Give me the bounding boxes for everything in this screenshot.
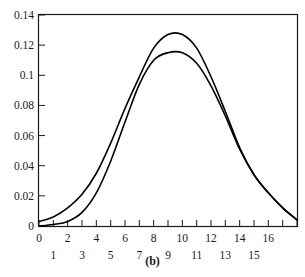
y-tick-label: 0.14 bbox=[14, 9, 34, 21]
y-tick-label: 0.04 bbox=[14, 160, 34, 172]
x-axis-tick-labels-upper: 0246810121416 bbox=[36, 232, 274, 244]
x-tick-label: 12 bbox=[205, 232, 217, 244]
figure-caption: (b) bbox=[0, 254, 305, 269]
x-tick-label: 2 bbox=[65, 232, 71, 244]
y-axis-tick-labels: 00.020.040.060.080.10.120.14 bbox=[14, 9, 34, 232]
x-tick-label: 14 bbox=[234, 232, 246, 244]
x-tick-label: 4 bbox=[93, 232, 99, 244]
y-tick-label: 0.1 bbox=[20, 69, 35, 81]
curve-curve-upper bbox=[39, 33, 297, 222]
x-tick-label: 8 bbox=[151, 232, 157, 244]
figure-container: 00.020.040.060.080.10.120.14 02468101214… bbox=[0, 0, 305, 277]
y-tick-label: 0.12 bbox=[14, 39, 34, 51]
data-curves bbox=[39, 33, 297, 226]
x-tick-label: 16 bbox=[263, 232, 275, 244]
y-tick-label: 0.02 bbox=[14, 190, 34, 202]
x-tick-label: 10 bbox=[177, 232, 189, 244]
y-tick-label: 0 bbox=[28, 220, 34, 232]
x-tick-label: 6 bbox=[122, 232, 128, 244]
plot-frame bbox=[39, 15, 298, 227]
x-tick-label: 0 bbox=[36, 232, 42, 244]
y-tick-label: 0.06 bbox=[14, 130, 34, 142]
x-axis-ticks bbox=[39, 220, 297, 226]
distribution-chart: 00.020.040.060.080.10.120.14 02468101214… bbox=[0, 0, 305, 277]
y-tick-label: 0.08 bbox=[14, 99, 34, 111]
y-axis-ticks bbox=[39, 15, 45, 196]
